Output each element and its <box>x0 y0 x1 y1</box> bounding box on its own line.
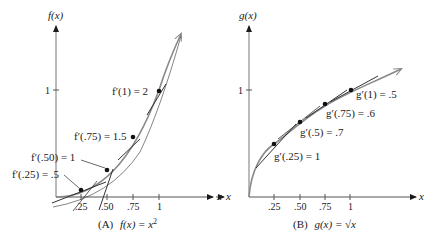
annotation-g05: g′(.5) = .7 <box>300 126 344 139</box>
x-axis-label: x <box>216 190 222 202</box>
x-tick-label: .25 <box>268 201 281 212</box>
point <box>298 120 303 125</box>
point <box>131 135 136 140</box>
x-tick-label: .50 <box>294 201 307 212</box>
point <box>79 188 84 193</box>
caption-a: (A) f(x) = x2 <box>98 217 157 232</box>
point <box>105 168 110 173</box>
x-axis-label-left: x <box>225 190 231 202</box>
x-tick-label: .75 <box>127 201 140 212</box>
point <box>349 88 354 93</box>
annotation-f1: f′(1) = 2 <box>112 85 148 98</box>
x-tick-label: .75 <box>319 201 332 212</box>
caption-b: (B) g(x) = √x <box>293 218 356 231</box>
y-axis-label: f(x) <box>48 9 64 22</box>
panel-a: f(x) x 1 .25 .50 .75 1 f′(1) <box>12 9 222 231</box>
x-tick-label: .50 <box>101 201 114 212</box>
curve-f <box>56 34 181 197</box>
x-tick-label: 1 <box>348 201 353 212</box>
annotation-g025: g′(.25) = 1 <box>274 150 320 163</box>
annotation-f025: f′(.25) = .5 <box>12 168 60 181</box>
figure: f(x) x 1 .25 .50 .75 1 f′(1) <box>0 0 429 238</box>
y-axis-label: g(x) <box>239 9 257 22</box>
point <box>323 102 328 107</box>
annotation-g075: g′(.75) = .6 <box>326 107 375 120</box>
x-tick-label: 1 <box>157 201 162 212</box>
tangent-line <box>147 84 166 115</box>
x-axis-label: x <box>418 190 424 202</box>
annotation-f050: f′(.50) = 1 <box>31 151 75 164</box>
annotation-g1: g′(1) = .5 <box>356 88 397 101</box>
point <box>272 142 277 147</box>
leader-line <box>64 175 79 188</box>
leader-line <box>81 160 105 168</box>
annotation-f075: f′(.75) = 1.5 <box>74 130 127 143</box>
y-tick-label: 1 <box>238 85 243 96</box>
y-tick-label: 1 <box>45 85 50 96</box>
panel-b: x g(x) x 1 .25 .50 .75 1 g′(1) = . <box>216 9 424 231</box>
point <box>157 89 162 94</box>
